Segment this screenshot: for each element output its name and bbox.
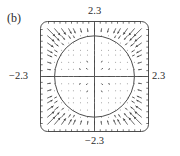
phase-portrait-plot (0, 0, 180, 156)
figure-panel: (b) 2.3 −2.3 −2.3 2.3 (0, 0, 180, 156)
